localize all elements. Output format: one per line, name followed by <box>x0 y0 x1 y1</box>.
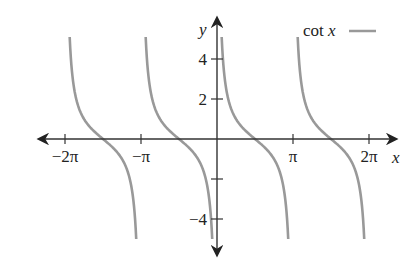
cot-branch <box>222 37 289 239</box>
x-tick-label: −2π <box>52 147 79 166</box>
x-tick-label: 2π <box>360 147 378 166</box>
cot-branch <box>70 37 137 239</box>
cot-branch <box>298 37 365 239</box>
y-tick-label: 4 <box>199 50 208 69</box>
x-tick-label: −π <box>132 147 151 166</box>
legend: cot x <box>303 21 376 40</box>
y-axis-label: y <box>197 20 207 39</box>
y-tick-label: 2 <box>199 90 208 109</box>
x-tick-label: π <box>289 147 298 166</box>
legend-label: cot x <box>303 21 336 40</box>
cotangent-chart: −2π−ππ2π 42−4 x y cot x <box>0 0 414 269</box>
y-tick-label: −4 <box>189 210 208 229</box>
x-axis-label: x <box>391 148 400 167</box>
